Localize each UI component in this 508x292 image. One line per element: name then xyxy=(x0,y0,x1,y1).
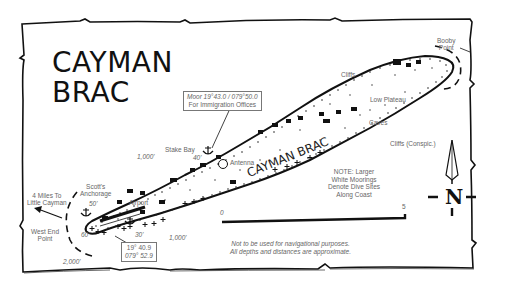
title-line-2: BRAC xyxy=(52,78,173,108)
scale-start: 0 xyxy=(220,210,224,217)
caves-label: Caves xyxy=(369,120,387,127)
map-title: CAYMAN BRAC xyxy=(52,48,173,108)
note-line-2: White Moorings xyxy=(328,176,380,184)
coord-lon: 079° 52.9 xyxy=(125,252,153,260)
depth-30: 30' xyxy=(135,232,143,239)
little-cayman-line-1: 4 Miles To xyxy=(27,192,67,199)
depth-40: 40' xyxy=(193,155,201,162)
low-plateau-label: Low Plateau xyxy=(370,97,406,104)
little-cayman-label: 4 Miles To Little Cayman xyxy=(27,192,67,206)
west-end-coords-box: 19° 40.9 079° 52.9 xyxy=(121,242,157,262)
antenna-label: Antenna xyxy=(230,160,254,167)
coord-lat: 19° 40.9 xyxy=(125,244,153,252)
little-cayman-arrow xyxy=(38,209,62,218)
little-cayman-line-2: Little Cayman xyxy=(27,199,67,206)
west-end-point-label: West End Point xyxy=(31,228,59,242)
depth-1000-south: 1,000' xyxy=(169,235,187,242)
compass-north-label: N xyxy=(445,185,463,209)
note-line-1: NOTE: Larger xyxy=(328,168,380,176)
scale-bar xyxy=(222,214,405,222)
dive-sites-note: NOTE: Larger White Moorings Denote Dive … xyxy=(328,168,380,198)
stake-bay-label: Stake Bay xyxy=(165,147,195,154)
title-line-1: CAYMAN xyxy=(52,48,173,78)
depth-60: 60' xyxy=(81,232,89,239)
immigration-mooring-box: Moor 19°43.0 / 079°50.0 For Immigration … xyxy=(183,91,262,111)
west-end-line-2: Point xyxy=(31,235,59,242)
depth-50: 50' xyxy=(89,201,97,208)
disclaimer-line-1: Not to be used for navigational purposes… xyxy=(230,240,351,248)
note-line-4: Along Coast xyxy=(328,191,380,199)
chart-map: CAYMAN BRAC CAYMAN BRAC Moor 19°43.0 / 0… xyxy=(0,0,508,292)
note-line-3: Denote Dive Sites xyxy=(328,183,380,191)
cliffs-label: Cliffs xyxy=(341,72,355,79)
scotts-line-2: Anchorage xyxy=(80,190,111,197)
scotts-anchorage-label: Scott's Anchorage xyxy=(80,183,111,197)
disclaimer: Not to be used for navigational purposes… xyxy=(230,240,351,256)
disclaimer-line-2: All depths and distances are approximate… xyxy=(230,248,351,256)
airport-label: Airport xyxy=(129,200,148,207)
immigration-note: For Immigration Offices xyxy=(187,101,258,109)
depth-2000: 2,000' xyxy=(63,259,81,266)
cliffs-conspic-label: Cliffs (Conspic.) xyxy=(390,141,436,148)
immigration-coords: Moor 19°43.0 / 079°50.0 xyxy=(187,93,258,101)
booby-point: Booby Point xyxy=(437,37,455,51)
scotts-line-1: Scott's xyxy=(80,183,111,190)
booby-line-1: Booby xyxy=(437,37,455,44)
booby-line-2: Point xyxy=(437,44,455,51)
west-end-line-1: West End xyxy=(31,228,59,235)
depth-1000-north: 1,000' xyxy=(137,154,155,161)
scale-end: 5 xyxy=(402,204,406,211)
